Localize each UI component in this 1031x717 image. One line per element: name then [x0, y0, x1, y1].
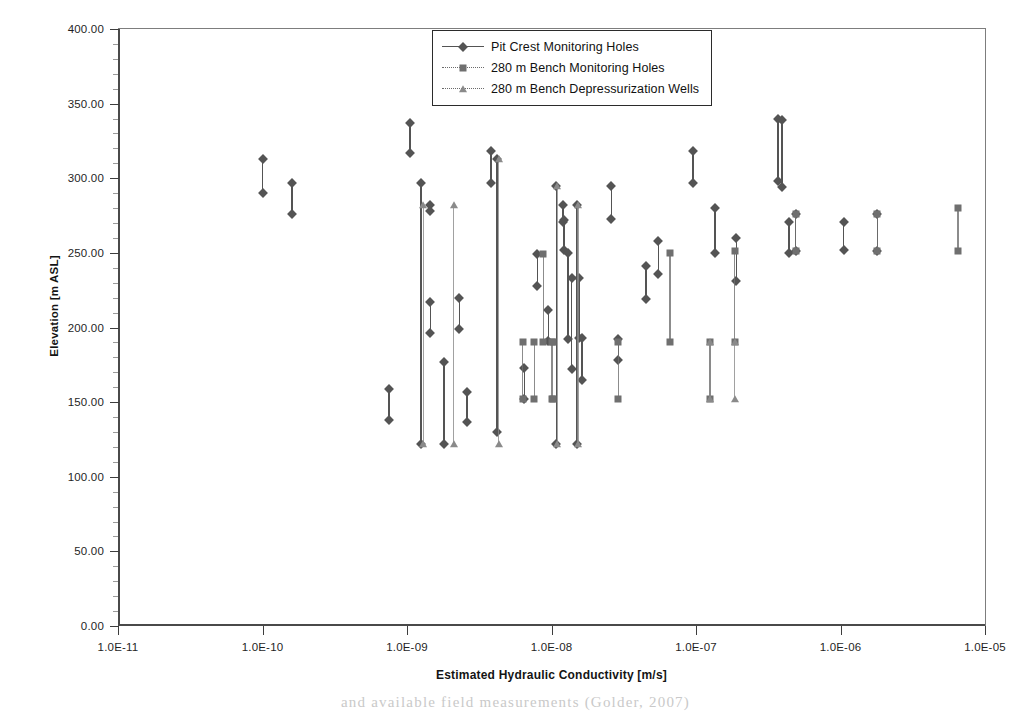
y-minor-tick [113, 432, 118, 433]
y-tick [110, 551, 119, 552]
data-point-marker [731, 339, 739, 346]
data-point-marker [450, 440, 458, 447]
y-minor-tick [113, 507, 118, 508]
y-minor-tick [113, 611, 118, 612]
legend-item-3: 280 m Bench Depressurization Wells [442, 78, 699, 99]
y-minor-tick [113, 342, 118, 343]
data-point-marker [574, 201, 582, 208]
x-tick [841, 626, 842, 635]
y-minor-tick [113, 387, 118, 388]
data-point-marker [666, 339, 673, 346]
y-tick-label: 0.00 [8, 620, 104, 632]
legend-label: 280 m Bench Depressurization Wells [491, 82, 699, 96]
screen-interval-line [714, 208, 716, 253]
data-point-marker [549, 396, 556, 403]
screen-interval-line [618, 342, 620, 399]
screen-interval-line [420, 183, 422, 444]
legend-item-2: 280 m Bench Monitoring Holes [442, 57, 699, 78]
data-point-marker [615, 396, 622, 403]
legend-label: 280 m Bench Monitoring Holes [491, 61, 665, 75]
y-minor-tick [113, 133, 118, 134]
y-minor-tick [113, 536, 118, 537]
y-tick [110, 477, 119, 478]
x-tick-label: 1.0E-08 [492, 641, 612, 653]
screen-interval-line [957, 208, 959, 251]
y-minor-tick [113, 119, 118, 120]
y-minor-tick [113, 238, 118, 239]
hydraulic-conductivity-figure: 0.0050.00100.00150.00200.00250.00300.003… [0, 0, 1031, 717]
data-point-marker [792, 211, 799, 218]
y-minor-tick [113, 208, 118, 209]
screen-interval-line [581, 338, 583, 380]
x-axis-title: Estimated Hydraulic Conductivity [m/s] [118, 668, 985, 682]
legend-key-icon [442, 83, 484, 95]
y-minor-tick [113, 298, 118, 299]
y-minor-tick [113, 596, 118, 597]
y-minor-tick [113, 417, 118, 418]
y-axis-title: Elevation [m ASL] [48, 206, 60, 406]
y-minor-tick [113, 313, 118, 314]
y-minor-tick [113, 268, 118, 269]
screen-interval-line [571, 278, 573, 369]
chart-legend: Pit Crest Monitoring Holes280 m Bench Mo… [432, 30, 712, 106]
legend-marker [458, 42, 468, 52]
y-minor-tick [113, 44, 118, 45]
legend-item-1: Pit Crest Monitoring Holes [442, 36, 699, 57]
screen-interval-line [534, 342, 536, 399]
y-minor-tick [113, 462, 118, 463]
screen-interval-line [543, 254, 545, 342]
data-point-marker [540, 339, 547, 346]
data-point-marker [706, 395, 714, 402]
x-tick-label: 1.0E-10 [203, 641, 323, 653]
data-point-marker [450, 201, 458, 208]
data-point-marker [615, 339, 622, 346]
data-point-marker [553, 440, 561, 447]
data-point-marker [666, 249, 673, 256]
y-minor-tick [113, 566, 118, 567]
data-point-marker [874, 211, 881, 218]
legend-key-icon [442, 41, 484, 53]
screen-interval-line [781, 120, 783, 187]
screen-interval-line [567, 253, 569, 340]
screen-interval-line [552, 342, 554, 399]
y-tick-label: 100.00 [8, 471, 104, 483]
legend-marker [460, 64, 467, 71]
x-tick-label: 1.0E-11 [58, 641, 178, 653]
y-tick [110, 253, 119, 254]
y-minor-tick [113, 59, 118, 60]
data-point-marker [792, 248, 799, 255]
data-point-marker [954, 205, 961, 212]
screen-interval-line [795, 214, 797, 251]
data-point-marker [519, 396, 526, 403]
plot-frame-top [118, 28, 986, 29]
y-tick [110, 104, 119, 105]
data-point-marker [549, 339, 556, 346]
data-point-marker [519, 339, 526, 346]
data-point-marker [540, 251, 547, 258]
y-minor-tick [113, 223, 118, 224]
x-tick-label: 1.0E-07 [636, 641, 756, 653]
x-tick [263, 626, 264, 635]
y-minor-tick [113, 372, 118, 373]
data-point-marker [954, 248, 961, 255]
screen-interval-line [522, 342, 524, 399]
screen-interval-line [669, 253, 671, 343]
legend-key-icon [442, 62, 484, 74]
plot-frame-right [985, 29, 986, 627]
y-minor-tick [113, 492, 118, 493]
x-tick [118, 626, 119, 635]
screen-interval-line [734, 342, 736, 399]
data-point-marker [495, 440, 503, 447]
y-tick-label: 300.00 [8, 172, 104, 184]
x-tick-label: 1.0E-06 [781, 641, 901, 653]
screen-interval-line [423, 205, 425, 444]
y-tick-label: 400.00 [8, 23, 104, 35]
y-minor-tick [113, 447, 118, 448]
data-point-marker [553, 182, 561, 189]
data-point-marker [574, 440, 582, 447]
y-minor-tick [113, 283, 118, 284]
screen-interval-line [577, 205, 579, 444]
data-point-marker [419, 440, 427, 447]
legend-marker [459, 85, 467, 92]
y-tick [110, 328, 119, 329]
